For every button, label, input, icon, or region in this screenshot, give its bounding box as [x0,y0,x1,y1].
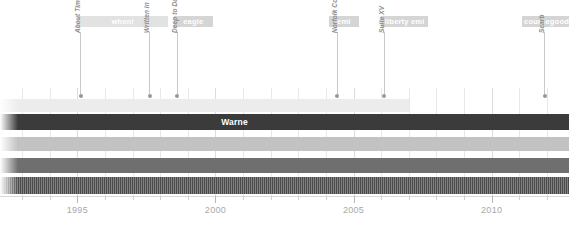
release-marker[interactable]: Deep to Dance [177,32,178,98]
release-leader-line [544,32,545,98]
axis-tick-minor [298,196,299,200]
member-bar[interactable] [0,99,569,112]
member-bar-label: Warne [221,117,248,127]
axis-tick-minor [271,196,272,200]
member-bar-fill [0,177,569,194]
release-marker[interactable]: About Time [80,32,81,98]
axis-label: 2005 [343,205,364,215]
axis-tick-minor [326,196,327,200]
axis-tick-major [354,196,355,203]
release-marker[interactable]: Suite XV [384,32,385,98]
release-dot [543,94,547,98]
release-dot [148,94,152,98]
axis-tick-minor [464,196,465,200]
release-marker[interactable]: Norfolk Coast [337,32,338,98]
axis-tick-minor [105,196,106,200]
axis-tick-minor [50,196,51,200]
release-title: Scarb [538,14,545,33]
release-leader-line [384,32,385,98]
axis-label: 2010 [481,205,502,215]
release-leader-line [337,32,338,98]
axis-tick-minor [133,196,134,200]
release-marker[interactable]: Written in Red [149,32,150,98]
release-title: Written in Red [143,0,150,33]
member-bar[interactable] [0,158,569,173]
member-bar-fill [0,114,569,130]
release-title: Deep to Dance [171,0,178,33]
member-bar[interactable] [0,177,569,194]
axis-tick-minor [409,196,410,200]
axis-tick-minor [519,196,520,200]
release-leader-line [177,32,178,98]
release-leader-line [80,32,81,98]
member-bar[interactable]: Warne [0,114,569,130]
axis-tick-minor [243,196,244,200]
axis-tick-minor [160,196,161,200]
axis-tick-major [77,196,78,203]
axis-tick-major [492,196,493,203]
release-marker[interactable]: Scarb [544,32,545,98]
release-dot [79,94,83,98]
release-dot [382,94,386,98]
era-badge[interactable]: liberty emi [381,16,428,27]
release-title: Suite XV [378,6,385,33]
release-title: Norfolk Coast [331,0,338,33]
axis-tick-minor [22,196,23,200]
release-leader-line [149,32,150,98]
axis-tick-minor [436,196,437,200]
axis-tick-major [215,196,216,203]
member-bar-fill [0,158,569,173]
era-badge[interactable]: eagle [174,16,213,27]
era-badge[interactable]: coursegood [522,16,569,27]
member-bar-fill [0,137,569,151]
era-badge[interactable]: when! [77,16,168,27]
timeline-chart: when!eagleemiliberty emicoursegood About… [0,0,569,227]
release-title: About Time [74,0,81,33]
axis-tick-minor [188,196,189,200]
axis-label: 2000 [205,205,226,215]
axis-rule [0,196,569,197]
axis-tick-minor [381,196,382,200]
member-bar-fill [0,99,409,112]
member-bar[interactable] [0,137,569,151]
release-dot [335,94,339,98]
axis-label: 1995 [67,205,88,215]
axis-tick-minor [547,196,548,200]
release-dot [175,94,179,98]
